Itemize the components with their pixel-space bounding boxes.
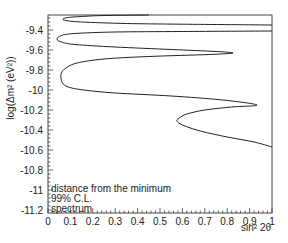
y-axis-label: log(Δm² (eV²)) <box>5 56 16 119</box>
contour-line-1 <box>57 31 272 147</box>
x-tick-label: 0.4 <box>131 216 145 227</box>
y-tick-label: -11 <box>29 185 43 196</box>
x-tick-label: 0.5 <box>153 216 167 227</box>
x-tick-label: 0.1 <box>63 216 77 227</box>
y-axis-tick-labels: -9.4-9.6-9.8-10-10.2-10.4-10.6-10.8-11-1… <box>20 25 43 216</box>
y-tick-label: -11.2 <box>21 205 43 216</box>
y-tick-label: -10.2 <box>20 105 43 116</box>
x-tick-label: 0.8 <box>220 216 234 227</box>
y-tick-label: -10 <box>29 85 44 96</box>
y-tick-label: -10.4 <box>20 125 43 136</box>
y-tick-label: -10.6 <box>20 145 43 156</box>
x-tick-label: 0.2 <box>86 216 100 227</box>
y-tick-label: -9.6 <box>26 45 44 56</box>
x-axis-label: sin² 2θ <box>241 222 271 233</box>
y-tick-label: -9.4 <box>26 25 44 36</box>
legend-entry-spectrum: spectrum <box>51 203 92 214</box>
y-tick-label: -10.8 <box>20 165 43 176</box>
x-tick-label: 0.3 <box>108 216 122 227</box>
chart: 00.10.20.30.40.50.60.70.80.91 -9.4-9.6-9… <box>0 0 288 243</box>
series-group <box>57 15 272 147</box>
x-tick-label: 0.6 <box>175 216 189 227</box>
legend: distance from the minimum 99% C.L. spect… <box>51 183 171 214</box>
y-axis-ticks <box>48 18 53 210</box>
contour-line-0 <box>63 15 272 25</box>
y-tick-label: -9.8 <box>26 65 44 76</box>
x-tick-label: 0.7 <box>198 216 212 227</box>
x-tick-label: 0 <box>45 216 51 227</box>
